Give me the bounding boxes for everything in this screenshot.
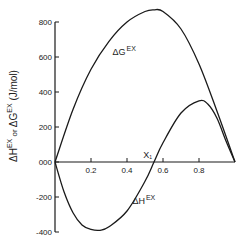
y-axis-title: ΔHEX or ΔGEX (J/mol) bbox=[6, 70, 19, 162]
h-excess-label: ΔHEX bbox=[132, 194, 155, 206]
x-axis-label: X1 bbox=[143, 150, 152, 160]
curve-labels: ΔGEXΔHEX bbox=[113, 45, 156, 206]
y-tick-label: 000 bbox=[39, 158, 53, 167]
x-tick-label: 0.4 bbox=[121, 166, 133, 175]
y-tick-label: -200 bbox=[36, 193, 53, 202]
x-tick-label: 0.8 bbox=[193, 166, 205, 175]
x-axis: 0.20.40.60.8X1 bbox=[55, 150, 235, 175]
y-tick-label: 600 bbox=[39, 53, 53, 62]
h-excess-curve bbox=[55, 100, 235, 230]
y-axis: 800600400200000-200-400 bbox=[36, 18, 59, 237]
y-tick-label: 800 bbox=[39, 18, 53, 27]
g-excess-label: ΔGEX bbox=[113, 45, 137, 57]
excess-property-chart: 800600400200000-200-400 0.20.40.60.8X1 Δ… bbox=[0, 0, 243, 241]
x-tick-label: 0.6 bbox=[157, 166, 169, 175]
x-tick-label: 0.2 bbox=[85, 166, 97, 175]
y-tick-label: 400 bbox=[39, 88, 53, 97]
y-tick-label: -400 bbox=[36, 228, 53, 237]
g-excess-curve bbox=[55, 9, 235, 162]
y-tick-label: 200 bbox=[39, 123, 53, 132]
y-axis-label: ΔHEX or ΔGEX (J/mol) bbox=[6, 70, 19, 162]
